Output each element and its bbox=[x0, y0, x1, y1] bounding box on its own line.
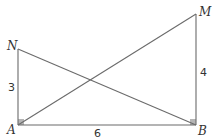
geometry-diagram: N A B M 3 4 6 bbox=[0, 0, 212, 140]
point-label-n: N bbox=[6, 39, 18, 53]
segment-am bbox=[18, 14, 196, 125]
point-label-b: B bbox=[197, 124, 207, 138]
point-label-m: M bbox=[198, 5, 212, 19]
point-label-a: A bbox=[6, 123, 16, 137]
length-label-ab: 6 bbox=[94, 127, 101, 140]
length-label-bm: 4 bbox=[200, 66, 207, 79]
length-label-an: 3 bbox=[8, 81, 15, 94]
segment-nb bbox=[18, 49, 196, 125]
